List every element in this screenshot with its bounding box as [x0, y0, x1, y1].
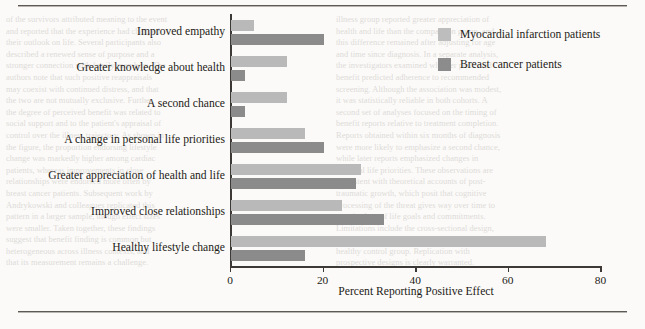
legend-item-breast-cancer: Breast cancer patients: [438, 58, 600, 71]
x-axis-tick: [508, 266, 509, 272]
bar-myocardial-infarction: [231, 164, 361, 175]
x-axis-tick: [323, 266, 324, 272]
category-label: Improved close relationships: [91, 206, 225, 218]
x-axis-tick: [415, 266, 416, 272]
bar-myocardial-infarction: [231, 20, 254, 31]
x-axis-tick: [230, 266, 231, 272]
category-axis-labels: Improved empathyGreater knowledge about …: [20, 14, 225, 266]
bar-breast-cancer: [231, 142, 324, 153]
category-label: Greater knowledge about health: [77, 62, 225, 74]
bar-myocardial-infarction: [231, 92, 287, 103]
legend-swatch-icon-breast-cancer: [438, 58, 451, 71]
legend-swatch-icon-myocardial-infarction: [438, 28, 451, 41]
bar-breast-cancer: [231, 214, 384, 225]
category-label: A second chance: [147, 98, 225, 110]
bar-myocardial-infarction: [231, 56, 287, 67]
legend-label-breast-cancer: Breast cancer patients: [460, 58, 562, 71]
bar-breast-cancer: [231, 250, 305, 261]
x-axis-tick: [600, 266, 601, 272]
chart-legend: Myocardial infarction patients Breast ca…: [438, 28, 600, 88]
bar-myocardial-infarction: [231, 128, 305, 139]
category-label: A change in personal life priorities: [64, 134, 225, 146]
legend-item-myocardial-infarction: Myocardial infarction patients: [438, 28, 600, 41]
bar-breast-cancer: [231, 70, 245, 81]
bar-chart-figure: Improved empathyGreater knowledge about …: [0, 0, 645, 329]
bar-myocardial-infarction: [231, 236, 546, 247]
bar-breast-cancer: [231, 34, 324, 45]
legend-label-myocardial-infarction: Myocardial infarction patients: [460, 28, 600, 41]
bar-breast-cancer: [231, 178, 356, 189]
value-axis-line: [230, 14, 232, 266]
category-label: Improved empathy: [137, 26, 225, 38]
category-label: Greater appreciation of health and life: [48, 170, 225, 182]
x-axis-title: Percent Reporting Positive Effect: [230, 285, 602, 298]
bar-myocardial-infarction: [231, 200, 342, 211]
category-label: Healthy lifestyle change: [112, 242, 225, 254]
bar-breast-cancer: [231, 106, 245, 117]
